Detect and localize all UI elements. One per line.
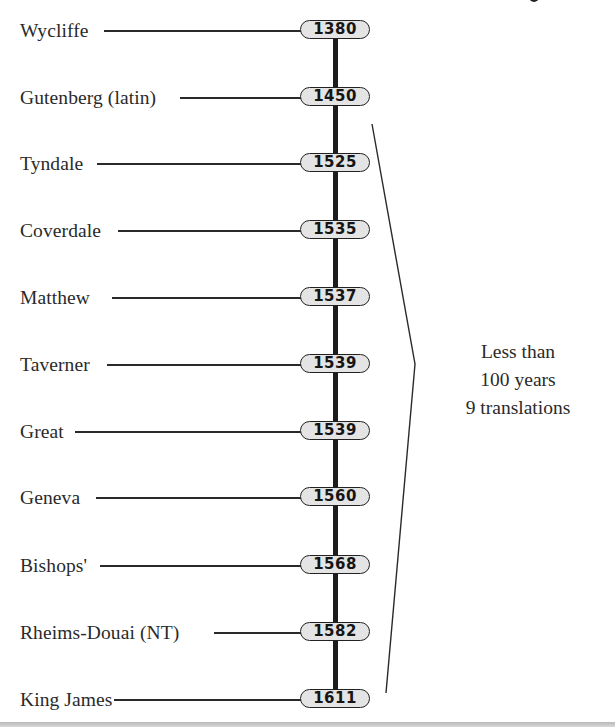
annotation-line-2: 100 years bbox=[430, 366, 606, 394]
footer-rule bbox=[0, 722, 615, 727]
bracket-annotation: Less than 100 years 9 translations bbox=[430, 338, 606, 422]
annotation-line-3: 9 translations bbox=[430, 394, 606, 422]
annotation-line-1: Less than bbox=[430, 338, 606, 366]
